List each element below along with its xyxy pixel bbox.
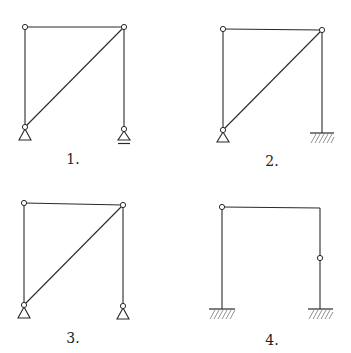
hinge-icon bbox=[120, 303, 125, 308]
hinge-icon bbox=[22, 124, 27, 129]
top-beam bbox=[223, 29, 322, 30]
diagram-4 bbox=[209, 204, 333, 319]
fixed-support-icon bbox=[308, 309, 333, 319]
diagram-3-label: 3. bbox=[66, 330, 79, 346]
diagonal bbox=[24, 205, 123, 305]
diagram-2-label: 2. bbox=[265, 153, 278, 169]
diagram-2 bbox=[217, 26, 334, 143]
hinge-icon bbox=[317, 255, 322, 260]
diagonal bbox=[25, 27, 124, 127]
structural-diagrams-canvas bbox=[0, 0, 351, 353]
diagram-4-label: 4. bbox=[265, 332, 278, 348]
roller-support-icon bbox=[118, 131, 130, 140]
hinge-icon bbox=[121, 24, 126, 29]
hinge-icon bbox=[21, 302, 26, 307]
fixed-support-icon bbox=[310, 133, 334, 143]
hinge-icon bbox=[319, 27, 324, 32]
pin-support-icon bbox=[217, 132, 229, 142]
top-beam bbox=[24, 203, 123, 205]
pin-support-icon bbox=[19, 129, 31, 140]
pin-support-icon bbox=[117, 308, 129, 319]
hinge-icon bbox=[220, 127, 225, 132]
hinge-icon bbox=[120, 202, 125, 207]
hinge-icon bbox=[21, 200, 26, 205]
diagonal bbox=[223, 30, 322, 130]
diagram-1-label: 1. bbox=[66, 151, 79, 167]
top-beam bbox=[222, 207, 320, 208]
diagram-3 bbox=[18, 200, 129, 319]
hinge-icon bbox=[220, 26, 225, 31]
pin-support-icon bbox=[18, 307, 30, 318]
diagram-1 bbox=[19, 24, 130, 143]
hinge-icon bbox=[121, 126, 126, 131]
hinge-icon bbox=[219, 204, 224, 209]
hinge-icon bbox=[22, 24, 27, 29]
fixed-support-icon bbox=[209, 309, 235, 319]
